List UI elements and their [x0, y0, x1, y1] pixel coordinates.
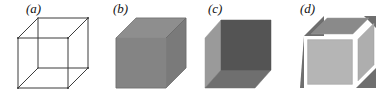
skeletal-cube-graphic	[285, 0, 389, 101]
shaded-cube-graphic	[190, 0, 285, 101]
wireframe-cube-graphic	[0, 0, 95, 101]
figure-canvas: (a) (b) (c) (d)	[0, 0, 389, 101]
panel-d: (d)	[285, 0, 389, 101]
uniform-grey-cube-graphic	[95, 0, 190, 101]
panel-b: (b)	[95, 0, 190, 101]
panel-a: (a)	[0, 0, 95, 101]
panel-c: (c)	[190, 0, 285, 101]
